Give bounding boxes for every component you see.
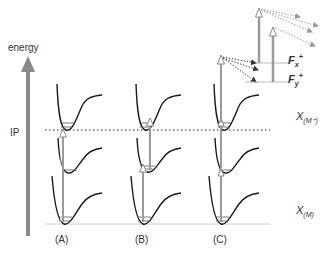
energy-axis-arrow [21, 56, 35, 236]
panel-c-arrows [218, 55, 225, 222]
panel-label-a: (A) [55, 234, 68, 245]
fragment-fx-label: Fx+ [288, 53, 303, 68]
ip-label: IP [10, 127, 19, 138]
fragment-fy-arrow [270, 27, 277, 82]
panel-label-c: (C) [213, 234, 227, 245]
panel-b-arrows [140, 118, 154, 222]
cation-state-label: X(M⁺) [296, 110, 318, 125]
energy-axis-label: energy [8, 42, 39, 53]
secondary-dissociation-arrows [261, 9, 318, 46]
fragment-fx-arrow [256, 8, 263, 63]
panel-a-curves [52, 84, 102, 224]
fragment-fy-label: Fy+ [288, 72, 303, 87]
neutral-state-label: X(M) [296, 204, 314, 218]
panel-c-curves [209, 84, 259, 224]
energy-diagram [0, 0, 331, 260]
panel-label-b: (B) [135, 234, 148, 245]
panel-a-ionization-arrow [60, 129, 67, 222]
fragment-levels [245, 63, 288, 82]
dissociation-arrows [223, 57, 258, 82]
panel-b-curves [131, 84, 181, 224]
